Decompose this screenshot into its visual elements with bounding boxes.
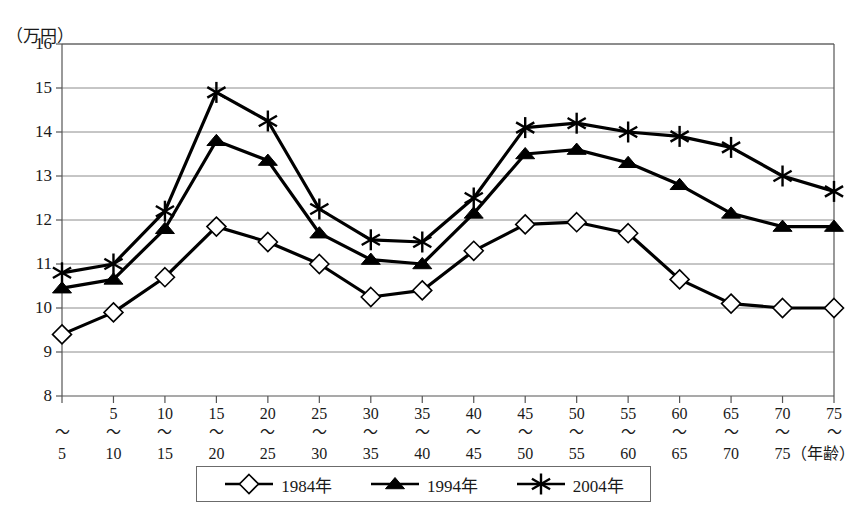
series-markers-2004年 [53,82,843,283]
y-tick-label: 9 [12,342,52,362]
y-tick-label: 13 [12,166,52,186]
x-tick-label: 45〜50 [517,404,533,464]
x-tick-range-end: 70 [723,444,739,464]
x-tick-range-end: 15 [157,444,173,464]
x-tick-range-end: 55 [569,444,585,464]
legend-label: 2004年 [573,472,624,497]
x-tick-range-tilde: 〜 [157,424,173,444]
y-tick-label: 14 [12,122,52,142]
x-tick-range-start: 60 [672,404,688,424]
x-tick-range-end: 50 [517,444,533,464]
marker-filled-triangle [207,134,226,145]
legend-entry: 1994年 [369,472,478,497]
y-tick-label: 12 [12,210,52,230]
marker-open-diamond [516,215,535,234]
legend-marker-filled-triangle [369,473,421,495]
y-tick-label: 8 [12,386,52,406]
legend-entry: 2004年 [515,472,624,497]
marker-filled-triangle [310,227,329,238]
x-tick-range-tilde: 〜 [363,424,379,444]
x-tick-label: 30〜35 [363,404,379,464]
marker-filled-triangle [464,207,483,218]
x-tick-range-start: 30 [363,404,379,424]
series-2004年 [62,92,834,272]
marker-open-diamond [361,288,380,307]
x-tick-range-end: 25 [260,444,276,464]
x-tick-range-tilde: 〜 [105,424,121,444]
x-tick-range-start [55,404,70,424]
y-tick-label: 10 [12,298,52,318]
marker-filled-triangle [155,222,174,233]
legend-entry: 1984年 [223,472,332,497]
x-tick-label: 35〜40 [414,404,430,464]
x-tick-range-start: 55 [620,404,636,424]
line-chart: （万円） （年齢） 8910111213141516 〜55〜1010〜1515… [0,0,861,514]
legend-label: 1984年 [281,472,332,497]
x-tick-label: 55〜60 [620,404,636,464]
x-tick-range-end: 5 [55,444,70,464]
legend-marker-open-diamond [223,473,275,495]
y-tick-label: 15 [12,78,52,98]
x-tick-label: 65〜70 [723,404,739,464]
x-tick-range-tilde: 〜 [414,424,430,444]
x-tick-range-tilde: 〜 [826,424,842,444]
marker-open-diamond [567,213,586,232]
x-tick-range-tilde: 〜 [466,424,482,444]
marker-filled-triangle [670,178,689,189]
marker-open-diamond [53,325,72,344]
legend-marker-asterisk [515,473,567,495]
marker-open-diamond [240,475,259,494]
x-tick-label: 50〜55 [569,404,585,464]
x-tick-range-start: 20 [260,404,276,424]
gridlines [62,44,834,352]
marker-open-diamond [310,255,329,274]
x-tick-range-end: 60 [620,444,636,464]
x-tick-range-start: 45 [517,404,533,424]
x-tick-label: 〜5 [55,404,70,464]
x-tick-range-tilde: 〜 [517,424,533,444]
x-tick-range-tilde: 〜 [672,424,688,444]
marker-open-diamond [773,299,792,318]
x-tick-range-start: 10 [157,404,173,424]
x-tick-range-end: 45 [466,444,482,464]
marker-asterisk [259,111,277,132]
x-tick-range-tilde: 〜 [775,424,791,444]
marker-asterisk [825,181,843,202]
x-tick-range-end: 65 [672,444,688,464]
x-tick-range-start: 25 [311,404,327,424]
x-tick-range-start: 15 [208,404,224,424]
marker-open-diamond [825,299,844,318]
x-tick-range-start: 5 [105,404,121,424]
x-tick-label: 20〜25 [260,404,276,464]
x-tick-label: 75〜 [826,404,842,464]
y-tick-label: 16 [12,34,52,54]
x-tick-range-tilde: 〜 [569,424,585,444]
x-tick-range-tilde: 〜 [311,424,327,444]
x-tick-range-end: 75 [775,444,791,464]
legend-label: 1994年 [427,472,478,497]
x-tick-range-tilde: 〜 [620,424,636,444]
y-tick-label: 11 [12,254,52,274]
x-tick-label: 60〜65 [672,404,688,464]
x-tick-range-tilde: 〜 [55,424,70,444]
x-tick-range-end: 30 [311,444,327,464]
x-tick-range-end: 40 [414,444,430,464]
marker-open-diamond [722,294,741,313]
marker-open-diamond [104,303,123,322]
x-tick-range-end [826,444,842,464]
x-tick-range-tilde: 〜 [260,424,276,444]
marker-asterisk [310,199,328,220]
marker-open-diamond [258,233,277,252]
x-tick-label: 10〜15 [157,404,173,464]
x-tick-label: 40〜45 [466,404,482,464]
x-tick-range-end: 10 [105,444,121,464]
x-tick-range-start: 50 [569,404,585,424]
x-tick-range-start: 40 [466,404,482,424]
x-tick-range-tilde: 〜 [208,424,224,444]
x-tick-label: 5〜10 [105,404,121,464]
x-tick-label: 70〜75 [775,404,791,464]
legend: 1984年1994年2004年 [196,466,651,502]
marker-asterisk [207,82,225,103]
x-tick-range-start: 65 [723,404,739,424]
x-tick-range-tilde: 〜 [723,424,739,444]
